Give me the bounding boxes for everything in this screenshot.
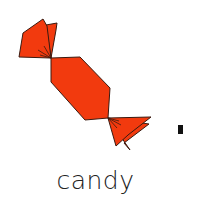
word-label: candy [0,166,197,196]
word-text: candy [56,166,134,196]
flashcard: candy [0,0,197,206]
period-mark [178,125,183,134]
